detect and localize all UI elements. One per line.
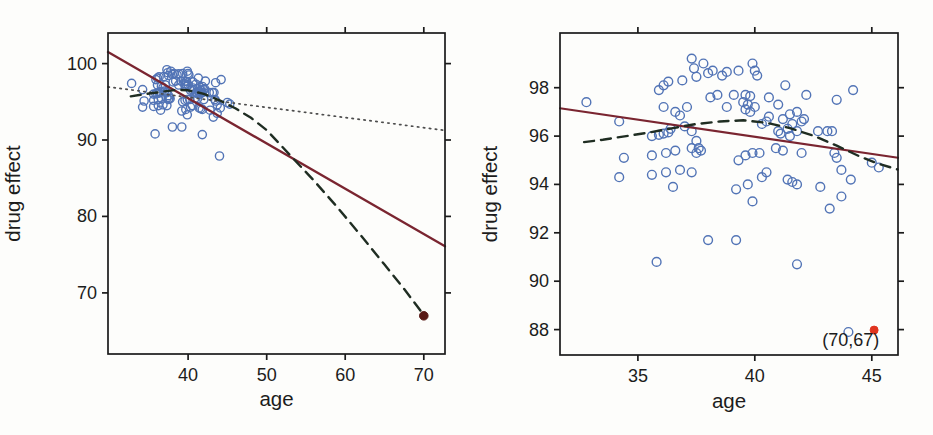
scatter-point bbox=[659, 103, 668, 112]
linear-fit-without-outlier-line bbox=[560, 108, 898, 158]
x-axis-label: age bbox=[712, 389, 746, 412]
y-tick-label: 80 bbox=[77, 206, 97, 226]
y-tick-label: 90 bbox=[529, 271, 549, 291]
scatter-point bbox=[198, 131, 206, 139]
y-tick-label: 92 bbox=[529, 223, 549, 243]
scatter-point bbox=[797, 149, 806, 158]
scatter-point bbox=[671, 146, 680, 155]
scatter-point bbox=[743, 180, 752, 189]
y-tick-label: 88 bbox=[529, 320, 549, 340]
scatter-point bbox=[128, 79, 136, 87]
scatter-point bbox=[692, 72, 701, 81]
scatter-point bbox=[825, 204, 834, 213]
scatter-point bbox=[774, 100, 783, 109]
scatter-point bbox=[648, 151, 657, 160]
scatter-point bbox=[800, 115, 809, 124]
outlier-coordinates-label: (70,67) bbox=[822, 330, 879, 350]
scatter-point bbox=[732, 185, 741, 194]
x-tick-label: 35 bbox=[628, 366, 648, 386]
scatter-point bbox=[748, 197, 757, 206]
y-tick-label: 96 bbox=[529, 126, 549, 146]
scatter-point bbox=[797, 117, 806, 126]
scatter-point bbox=[582, 98, 591, 107]
y-tick-label: 90 bbox=[77, 130, 97, 150]
scatter-point bbox=[774, 127, 783, 136]
scatter-point bbox=[178, 123, 186, 131]
scatter-point bbox=[687, 54, 696, 63]
scatter-point bbox=[816, 183, 825, 192]
scatter-point bbox=[652, 258, 661, 267]
scatter-plot-full-range: 40506070708090100agedrug effect bbox=[0, 0, 466, 435]
outlier-point bbox=[420, 312, 429, 321]
left-panel-full-range: 40506070708090100agedrug effect bbox=[0, 0, 466, 435]
scatter-plot-zoomed: (70,67)354045889092949698agedrug effect bbox=[466, 0, 933, 435]
scatter-point bbox=[793, 260, 802, 269]
figure-drug-effect-vs-age: 40506070708090100agedrug effect (70,67)3… bbox=[0, 0, 933, 435]
scatter-point bbox=[683, 103, 692, 112]
scatter-point bbox=[722, 103, 731, 112]
scatter-point bbox=[615, 173, 624, 182]
scatter-point bbox=[676, 166, 685, 175]
scatter-point bbox=[669, 183, 678, 192]
scatter-point bbox=[690, 64, 699, 73]
scatter-point bbox=[678, 76, 687, 85]
y-tick-label: 94 bbox=[529, 174, 549, 194]
x-tick-label: 60 bbox=[335, 365, 355, 385]
scatter-point bbox=[793, 127, 802, 136]
page: { "figure_title": "", "colors": { "scatt… bbox=[0, 0, 933, 435]
scatter-point bbox=[662, 168, 671, 177]
scatter-point bbox=[732, 236, 741, 245]
x-tick-label: 50 bbox=[257, 365, 277, 385]
scatter-point bbox=[704, 236, 713, 245]
scatter-point bbox=[837, 192, 846, 201]
x-tick-label: 40 bbox=[745, 366, 765, 386]
scatter-point bbox=[765, 93, 774, 102]
scatter-point bbox=[814, 127, 823, 136]
y-tick-label: 98 bbox=[529, 78, 549, 98]
scatter-point bbox=[215, 152, 223, 160]
y-axis-label: drug effect bbox=[1, 145, 24, 242]
y-axis-label: drug effect bbox=[478, 145, 501, 242]
scatter-point bbox=[168, 123, 176, 131]
x-tick-label: 45 bbox=[862, 366, 882, 386]
scatter-point bbox=[832, 95, 841, 104]
scatter-point bbox=[139, 86, 147, 94]
scatter-point bbox=[729, 91, 738, 100]
scatter-point bbox=[849, 86, 858, 95]
scatter-point bbox=[699, 59, 708, 68]
x-tick-label: 40 bbox=[178, 365, 198, 385]
x-tick-label: 70 bbox=[414, 365, 434, 385]
scatter-point bbox=[687, 168, 696, 177]
loess-fit-without-outlier-line bbox=[584, 120, 897, 169]
plot-frame bbox=[560, 33, 898, 355]
scatter-point bbox=[662, 149, 671, 158]
scatter-point bbox=[846, 175, 855, 184]
scatter-point bbox=[648, 170, 657, 179]
scatter-point bbox=[837, 166, 846, 175]
scatter-point bbox=[620, 153, 629, 162]
right-panel-zoomed: (70,67)354045889092949698agedrug effect bbox=[466, 0, 933, 435]
scatter-point bbox=[151, 130, 159, 138]
y-tick-label: 70 bbox=[77, 283, 97, 303]
linear-fit-without-outlier-line bbox=[108, 87, 445, 130]
scatter-point bbox=[802, 91, 811, 100]
linear-fit-with-outlier-line bbox=[108, 52, 445, 246]
y-tick-label: 100 bbox=[67, 54, 97, 74]
x-axis-label: age bbox=[259, 387, 293, 410]
scatter-point bbox=[615, 117, 624, 126]
scatter-point bbox=[781, 81, 790, 90]
scatter-point bbox=[734, 66, 743, 75]
